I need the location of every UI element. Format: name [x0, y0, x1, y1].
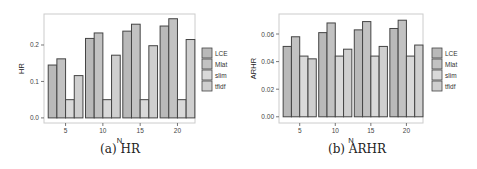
bar-tfidf: [149, 46, 158, 118]
bar-mlat: [131, 24, 140, 118]
legend-label-mlat: Mlat: [445, 61, 457, 68]
bar-mlat: [291, 37, 299, 117]
bar-tfidf: [344, 49, 352, 117]
legend-swatch-slim: [432, 70, 442, 80]
legend-label-lce: LCE: [445, 50, 458, 57]
legend-swatch-mlat: [432, 59, 442, 69]
y-tick-label: 0.02: [261, 86, 274, 93]
bar-lce: [160, 26, 169, 118]
bar-lce: [390, 28, 398, 116]
bar-slim: [371, 56, 379, 117]
bar-mlat: [57, 59, 66, 118]
bar-lce: [86, 38, 95, 117]
bar-lce: [48, 65, 57, 118]
bar-mlat: [327, 23, 335, 117]
x-tick-label: 20: [174, 127, 182, 134]
bar-tfidf: [112, 55, 121, 118]
bar-lce: [319, 33, 327, 117]
bar-tfidf: [308, 59, 316, 117]
y-tick-label: 0.04: [261, 58, 274, 65]
legend-swatch-lce: [202, 48, 212, 58]
legend-swatch-tfidf: [202, 81, 212, 91]
bar-slim: [300, 56, 308, 117]
legend-label-lce: LCE: [215, 50, 228, 57]
x-tick-label: 20: [403, 127, 411, 134]
legend-label-tfidf: tfidf: [215, 83, 226, 90]
bar-slim: [406, 56, 414, 117]
x-tick-label: 10: [99, 127, 107, 134]
bar-slim: [66, 100, 75, 118]
bar-mlat: [363, 22, 371, 117]
figure-arhr: 0.000.020.040.065101520NARHRLCEMlatslimt…: [237, 0, 477, 169]
x-tick-label: 15: [137, 127, 145, 134]
legend-swatch-tfidf: [432, 81, 442, 91]
legend-label-slim: slim: [215, 72, 227, 79]
bar-slim: [103, 100, 112, 118]
bar-slim: [177, 100, 186, 118]
bar-mlat: [169, 19, 178, 118]
caption-hr: (a) HR: [0, 142, 240, 156]
y-axis-label: ARHR: [249, 57, 258, 79]
bar-mlat: [398, 20, 406, 117]
x-tick-label: 15: [367, 127, 375, 134]
legend-label-slim: slim: [445, 72, 457, 79]
bar-tfidf: [74, 76, 83, 118]
x-tick-label: 5: [64, 127, 68, 134]
y-tick-label: 0.00: [261, 113, 274, 120]
y-axis-label: HR: [17, 63, 26, 74]
legend-label-tfidf: tfidf: [445, 83, 456, 90]
legend-swatch-mlat: [202, 59, 212, 69]
figure-hr: 0.00.10.25101520NHRLCEMlatslimtfidf (a) …: [0, 0, 240, 169]
bar-tfidf: [186, 40, 195, 118]
bar-slim: [335, 56, 343, 117]
y-tick-label: 0.2: [30, 41, 39, 48]
legend-label-mlat: Mlat: [215, 61, 227, 68]
bar-lce: [283, 46, 291, 116]
y-tick-label: 0.06: [261, 31, 274, 38]
bar-tfidf: [379, 46, 387, 116]
legend-swatch-slim: [202, 70, 212, 80]
bar-lce: [354, 30, 362, 117]
bar-slim: [140, 100, 149, 118]
bar-mlat: [94, 33, 103, 118]
legend-swatch-lce: [432, 48, 442, 58]
bar-lce: [123, 31, 132, 118]
x-tick-label: 5: [298, 127, 302, 134]
y-tick-label: 0.0: [30, 114, 39, 121]
x-tick-label: 10: [332, 127, 340, 134]
y-tick-label: 0.1: [30, 78, 39, 85]
caption-arhr: (b) ARHR: [237, 142, 477, 156]
bar-tfidf: [415, 45, 423, 117]
